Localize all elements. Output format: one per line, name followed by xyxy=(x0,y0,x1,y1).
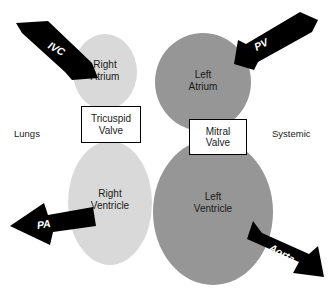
aorta-arrow-shape xyxy=(247,221,324,277)
vessel-arrows-layer xyxy=(0,0,333,300)
pv-arrow-shape xyxy=(234,12,318,70)
ivc-arrow-shape xyxy=(16,21,98,80)
systemic-label: Systemic xyxy=(272,128,311,139)
heart-circulation-diagram: Right Atrium Left Atrium Right Ventricle… xyxy=(0,0,333,300)
mitral-valve-box: Mitral Valve xyxy=(189,119,247,155)
tricuspid-valve-box: Tricuspid Valve xyxy=(81,106,141,143)
lungs-label: Lungs xyxy=(14,128,40,139)
pa-arrow-shape xyxy=(10,203,96,245)
